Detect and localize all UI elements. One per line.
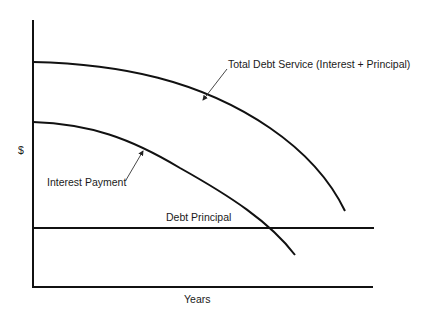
y-axis-label: $ [18,145,24,156]
interest-payment-curve [33,122,295,255]
total-debt-service-curve [33,62,345,211]
debt-service-diagram [0,0,432,317]
debt-principal-label: Debt Principal [166,212,231,223]
total-arrow-icon [203,69,227,100]
interest-arrow-icon [126,151,143,180]
x-axis-label: Years [184,294,210,305]
total-debt-service-label: Total Debt Service (Interest + Principal… [228,59,410,70]
interest-payment-label: Interest Payment [47,177,126,188]
